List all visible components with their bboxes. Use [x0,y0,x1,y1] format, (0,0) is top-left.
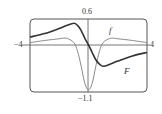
x-min-label: −4 [14,41,23,49]
curve-F-label: F [124,67,130,76]
x-max-label: 4 [150,41,154,49]
curve-f-label: f [109,26,112,35]
viewing-window-frame [30,19,147,92]
y-max-label: 0.6 [82,8,92,16]
y-min-label: −1.1 [78,95,93,103]
